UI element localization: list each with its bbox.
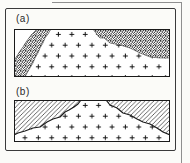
panel-a-label: (a) [16, 12, 30, 25]
panel-b-diagram [14, 100, 170, 142]
cropped-neighbor-figure-line-top [52, 2, 182, 3]
cropped-neighbor-figure-line-right [181, 2, 182, 163]
panel-a-diagram [14, 29, 170, 77]
panel-b-label: (b) [16, 85, 30, 98]
figure-scan: (a) [0, 0, 190, 163]
